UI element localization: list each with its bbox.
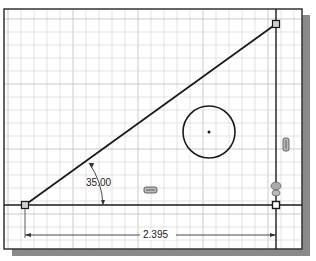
origin-point[interactable] [22, 202, 29, 209]
sketch-canvas[interactable]: 35.00 2.395 [0, 0, 316, 261]
top-right-point[interactable] [273, 21, 280, 28]
bottom-right-point[interactable] [273, 202, 280, 209]
frame-shadow-bottom [12, 249, 310, 256]
horizontal-dimension-label[interactable]: 2.395 [143, 229, 168, 240]
coincident-constraint-icon[interactable] [271, 182, 281, 196]
circle-center-point[interactable] [208, 131, 211, 134]
horizontal-constraint-icon[interactable] [144, 187, 157, 193]
vertical-constraint-icon[interactable] [283, 138, 289, 151]
frame-shadow-right [302, 15, 310, 255]
angle-dimension-label[interactable]: 35.00 [86, 177, 111, 188]
